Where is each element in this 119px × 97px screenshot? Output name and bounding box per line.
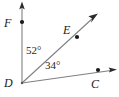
point-C-dot	[96, 68, 100, 72]
point-F-dot	[20, 20, 24, 24]
point-E-dot	[75, 35, 79, 39]
point-label-C: C	[91, 78, 99, 90]
vertex-D-dot	[21, 82, 23, 84]
angle-measure-EDC: 34°	[45, 60, 60, 71]
ray-DC-arrowhead	[109, 68, 117, 73]
geometry-diagram: F E D C 52° 34°	[0, 0, 119, 97]
angle-measure-FDE: 52°	[26, 45, 41, 56]
point-label-D: D	[4, 77, 13, 89]
point-label-E: E	[63, 24, 70, 36]
point-label-F: F	[4, 17, 11, 29]
diagram-canvas	[0, 0, 119, 97]
